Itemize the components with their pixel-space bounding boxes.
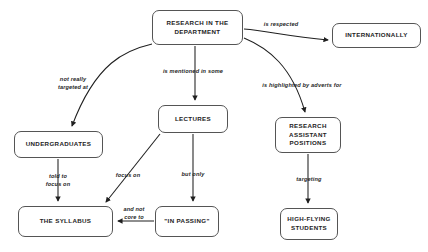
node-research-in-the-department[interactable]: RESEARCH IN THE DEPARTMENT bbox=[152, 10, 243, 45]
node-internationally[interactable]: INTERNATIONALLY bbox=[332, 23, 421, 48]
node-research-assistant-positions[interactable]: RESEARCH ASSISTANT POSITIONS bbox=[275, 117, 341, 153]
edge-label-and-not-core-to: and not core to bbox=[123, 206, 144, 221]
node-lectures[interactable]: LECTURES bbox=[158, 105, 228, 133]
edge-research-to-internationally bbox=[244, 29, 328, 40]
edge-label-is-respected: is respected bbox=[264, 21, 298, 29]
edge-label-but-only: but only bbox=[182, 171, 205, 179]
edge-lectures-to-syllabus bbox=[106, 134, 160, 202]
edge-label-is-mentioned-in-some: is mentioned in some bbox=[163, 68, 223, 76]
edge-label-focus-on: focus on bbox=[116, 172, 141, 180]
edge-label-targeting: targeting bbox=[296, 176, 321, 184]
node-undergraduates[interactable]: UNDERGRADUATES bbox=[14, 131, 103, 158]
edge-label-told-to-focus-on: told to focus on bbox=[46, 173, 71, 188]
node-in-passing[interactable]: "IN PASSING" bbox=[155, 206, 219, 237]
node-the-syllabus[interactable]: THE SYLLABUS bbox=[18, 206, 113, 237]
edge-label-not-really-targeted-at: not really targeted at bbox=[58, 76, 88, 91]
concept-map-canvas: RESEARCH IN THE DEPARTMENT INTERNATIONAL… bbox=[0, 0, 428, 252]
edge-research-to-ra-positions bbox=[244, 38, 305, 112]
edge-label-is-highlighted-by-adverts-for: is highlighted by adverts for bbox=[262, 82, 341, 90]
node-high-flying-students[interactable]: HIGH-FLYING STUDENTS bbox=[280, 208, 338, 240]
